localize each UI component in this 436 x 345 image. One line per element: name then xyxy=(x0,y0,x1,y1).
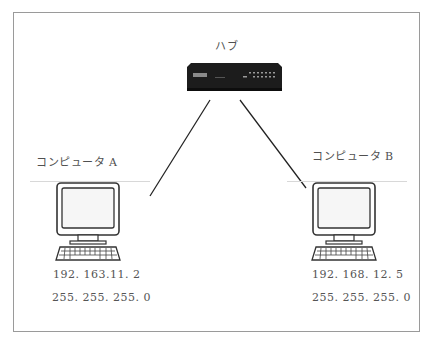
hub-label: ハブ xyxy=(215,37,238,53)
link-hub-to-a xyxy=(150,100,210,196)
computer-b-ip-address: 192. 168. 12. 5 xyxy=(312,268,403,281)
computer-b-label: コンピュータ B xyxy=(312,147,394,163)
computer-a-icon xyxy=(50,182,132,262)
computer-a-label: コンピュータ A xyxy=(36,153,117,169)
computer-a-subnet-mask: 255. 255. 255. 0 xyxy=(52,291,151,304)
link-hub-to-b xyxy=(240,100,306,188)
hub-icon xyxy=(187,63,282,91)
computer-a-ip-address: 192. 163.11. 2 xyxy=(53,268,140,281)
computer-b-icon xyxy=(306,182,388,262)
computer-b-subnet-mask: 255. 255. 255. 0 xyxy=(312,291,411,304)
